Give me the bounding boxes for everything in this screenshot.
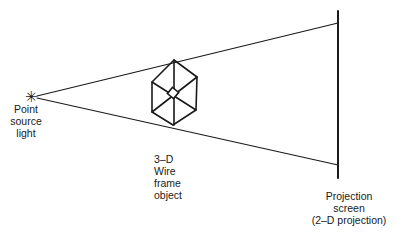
label-line: (2–D projection) [297, 214, 401, 226]
label-line: light [4, 127, 48, 139]
wireframe-object-label: 3–D Wire frame object [154, 153, 194, 201]
label-line: Point [4, 103, 48, 115]
asterisk-icon: ✳ [25, 89, 38, 104]
label-line: object [154, 189, 194, 201]
label-line: frame [154, 177, 194, 189]
point-source-label: Point source light [4, 103, 48, 139]
label-line: Projection [297, 190, 401, 202]
wireframe-cube-icon [152, 60, 197, 125]
label-line: 3–D [154, 153, 194, 165]
projection-screen-label: Projection screen (2–D projection) [297, 190, 401, 226]
label-line: source [4, 115, 48, 127]
label-line: Wire [154, 165, 194, 177]
label-line: screen [297, 202, 401, 214]
